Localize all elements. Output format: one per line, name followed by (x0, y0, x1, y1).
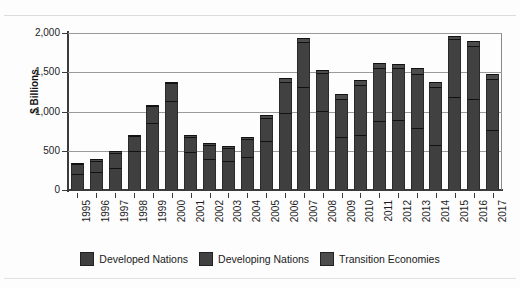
x-tick-mark (304, 193, 305, 198)
bar-segment[interactable] (486, 130, 499, 190)
x-tick-mark (96, 193, 97, 198)
x-tick-mark (342, 193, 343, 198)
x-tick-mark (115, 193, 116, 198)
x-tick-mark (247, 193, 248, 198)
bar-segment[interactable] (448, 36, 461, 39)
bar-segment[interactable] (90, 159, 103, 161)
bar-segment[interactable] (184, 137, 197, 152)
legend-item[interactable]: Developed Nations (80, 252, 188, 266)
bar-segment[interactable] (222, 161, 235, 190)
y-tick-label: 500 (16, 145, 60, 156)
bar-segment[interactable] (316, 111, 329, 190)
bar-segment[interactable] (146, 105, 159, 106)
bar-segment[interactable] (260, 118, 273, 142)
legend-item[interactable]: Developing Nations (199, 252, 309, 266)
bar-segment[interactable] (392, 120, 405, 190)
bar-segment[interactable] (316, 73, 329, 111)
x-tick-label: 2012 (402, 200, 413, 240)
bar-segment[interactable] (448, 39, 461, 97)
bar-segment[interactable] (184, 135, 197, 137)
bar-segment[interactable] (467, 99, 480, 190)
bar-segment[interactable] (165, 82, 178, 84)
bar-segment[interactable] (184, 152, 197, 190)
bar-segment[interactable] (335, 99, 348, 137)
bar-segment[interactable] (373, 68, 386, 121)
bar-segment[interactable] (411, 68, 424, 74)
bar-segment[interactable] (128, 151, 141, 190)
bar-segment[interactable] (279, 78, 292, 82)
bar-segment[interactable] (71, 163, 84, 164)
bar-segment[interactable] (146, 106, 159, 123)
x-tick-label: 2011 (383, 200, 394, 240)
bar-segment[interactable] (486, 74, 499, 79)
bar-segment[interactable] (429, 87, 442, 145)
bar-segment[interactable] (241, 157, 254, 190)
bar-segment[interactable] (146, 123, 159, 190)
bar-segment[interactable] (165, 101, 178, 190)
bar-segment[interactable] (354, 135, 367, 190)
bar-segment[interactable] (241, 137, 254, 139)
x-tick-mark (474, 193, 475, 198)
legend-label: Transition Economies (339, 253, 440, 265)
bar-segment[interactable] (279, 113, 292, 190)
bar-segment[interactable] (354, 85, 367, 135)
bar-segment[interactable] (297, 38, 310, 43)
legend-swatch (199, 252, 213, 266)
bar-segment[interactable] (429, 82, 442, 87)
bar-segment[interactable] (128, 135, 141, 137)
x-tick-label: 2015 (459, 200, 470, 240)
bar-segment[interactable] (373, 63, 386, 68)
y-axis-title: $ Billions (29, 32, 40, 152)
bar-segment[interactable] (241, 139, 254, 157)
x-tick-mark (323, 193, 324, 198)
bar-segment[interactable] (128, 136, 141, 151)
bar-segment[interactable] (411, 128, 424, 190)
x-tick-mark (191, 193, 192, 198)
bar-segment[interactable] (467, 41, 480, 46)
x-tick-mark (285, 193, 286, 198)
bar-segment[interactable] (335, 137, 348, 190)
bar-segment[interactable] (203, 145, 216, 158)
bar-segment[interactable] (486, 79, 499, 131)
x-tick-label: 2009 (346, 200, 357, 240)
bar-segment[interactable] (222, 146, 235, 148)
bar-segment[interactable] (222, 148, 235, 161)
bar-segment[interactable] (392, 68, 405, 120)
bar-segment[interactable] (297, 42, 310, 87)
x-tick-mark (266, 193, 267, 198)
bar-segment[interactable] (392, 64, 405, 69)
bar-segment[interactable] (260, 115, 273, 118)
bar-segment[interactable] (411, 74, 424, 128)
bar-segment[interactable] (71, 174, 84, 190)
x-tick-label: 2003 (232, 200, 243, 240)
bar-segment[interactable] (279, 82, 292, 113)
legend-item[interactable]: Transition Economies (320, 252, 440, 266)
bar-segment[interactable] (203, 143, 216, 145)
x-tick-label: 2007 (308, 200, 319, 240)
x-tick-mark (77, 193, 78, 198)
bar-segment[interactable] (165, 83, 178, 101)
bar-segment[interactable] (109, 153, 122, 168)
bar-segment[interactable] (109, 168, 122, 190)
bar-segment[interactable] (429, 145, 442, 190)
bar-segment[interactable] (467, 46, 480, 99)
bar-segment[interactable] (90, 172, 103, 190)
bar-segment[interactable] (260, 141, 273, 190)
bar-segment[interactable] (448, 97, 461, 190)
bar-segment[interactable] (373, 121, 386, 190)
top-divider (4, 15, 516, 16)
x-tick-mark (172, 193, 173, 198)
bar-segment[interactable] (316, 70, 329, 73)
bar-segment[interactable] (354, 80, 367, 85)
bar-segment[interactable] (203, 159, 216, 190)
x-tick-label: 2013 (421, 200, 432, 240)
x-tick-label: 2008 (327, 200, 338, 240)
bar-segment[interactable] (71, 164, 84, 174)
bottom-divider (4, 278, 516, 279)
x-tick-mark (360, 193, 361, 198)
y-tick-label: 1,000 (16, 106, 60, 117)
bar-segment[interactable] (297, 87, 310, 190)
bar-segment[interactable] (90, 161, 103, 172)
bar-segment[interactable] (335, 94, 348, 99)
bar-segment[interactable] (109, 151, 122, 153)
